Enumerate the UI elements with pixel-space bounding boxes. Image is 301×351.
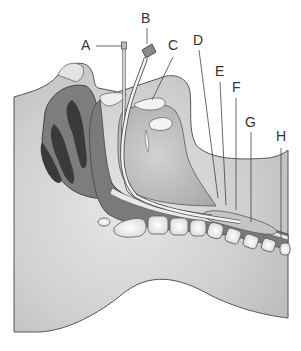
label-a: A <box>81 38 90 52</box>
label-c: C <box>168 38 178 52</box>
hyoid-bone <box>149 118 172 131</box>
label-e: E <box>215 64 224 78</box>
label-d: D <box>193 33 203 47</box>
label-h: H <box>276 129 286 143</box>
anatomy-diagram <box>0 0 301 351</box>
label-g: G <box>245 115 256 129</box>
label-f: F <box>232 80 241 94</box>
label-b: B <box>141 11 150 25</box>
